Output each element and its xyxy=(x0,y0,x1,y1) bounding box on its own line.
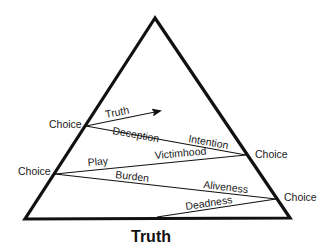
victimhood-label: Victimhood xyxy=(154,145,207,161)
aliveness-label: Aliveness xyxy=(203,178,249,195)
victimhood-play-line xyxy=(55,155,246,174)
choice-label-1: Choice xyxy=(49,118,82,130)
choice-label-3: Choice xyxy=(18,165,51,177)
deception-label: Deception xyxy=(112,124,161,144)
play-label: Play xyxy=(87,154,109,168)
choice-label-4: Choice xyxy=(284,191,317,203)
base-truth-label: Truth xyxy=(131,228,171,245)
truth-triangle-diagram: Choice Choice Choice Choice Truth Decept… xyxy=(0,0,327,252)
choice-label-2: Choice xyxy=(255,148,288,160)
